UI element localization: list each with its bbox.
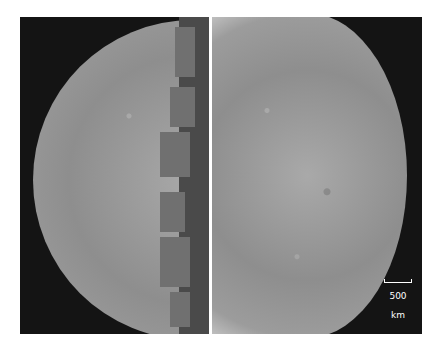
- scale-bar-label: 500 km: [389, 291, 406, 320]
- planet-right-hemisphere: [212, 17, 407, 334]
- right-hemisphere-panel: 500 km: [212, 17, 422, 334]
- left-hemisphere-panel: [20, 17, 209, 334]
- scale-bar-line: [384, 279, 412, 283]
- scale-bar: 500 km: [382, 279, 414, 322]
